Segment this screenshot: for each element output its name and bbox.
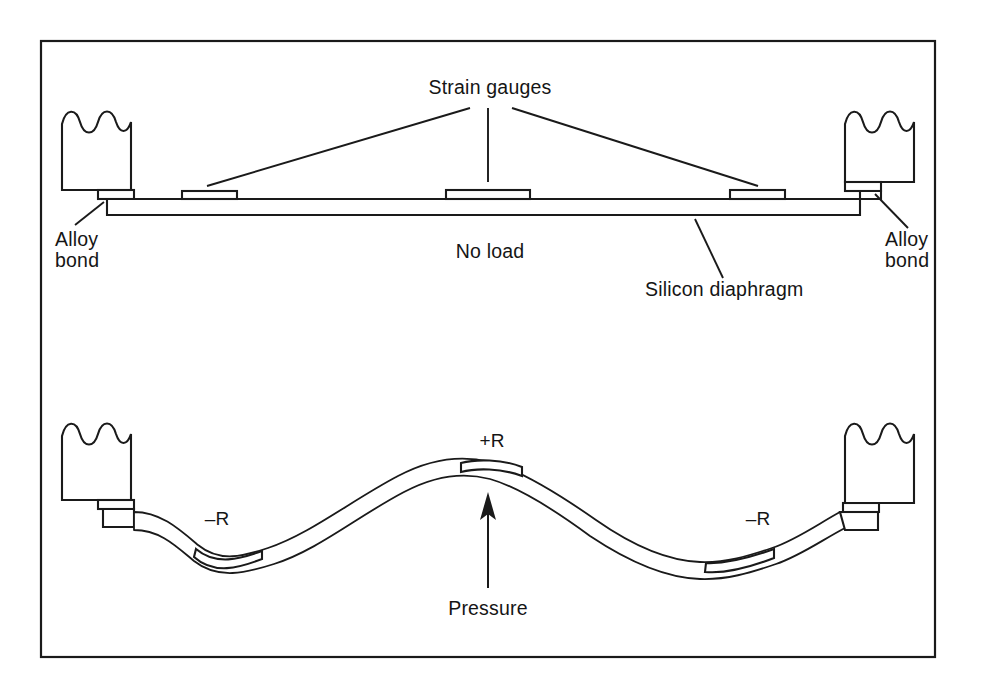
left-alloy-bond-strip-top — [98, 190, 134, 199]
gauge-label-plus-r: +R — [480, 430, 505, 451]
silicon-diaphragm-leader — [695, 219, 723, 278]
alloy-bond-right-label-line2: bond — [885, 249, 929, 271]
right-alloy-bond-strip-bottom — [843, 503, 879, 512]
diaphragm-right-clamp-stub — [840, 512, 878, 530]
right-support-block-bottom — [845, 424, 914, 504]
gauge-label-minus-r-right: –R — [746, 508, 770, 529]
pressure-panel: –R +R –R Pressure — [62, 424, 914, 620]
alloy-bond-left-label-line2: bond — [55, 249, 99, 271]
gauge-label-minus-r-left: –R — [205, 508, 229, 529]
strain-gauge-flat-left — [182, 191, 237, 199]
alloy-bond-left-leader — [75, 202, 104, 225]
strain-gauges-label: Strain gauges — [429, 76, 552, 98]
alloy-bond-left-label-line1: Alloy — [55, 228, 98, 250]
diaphragm-left-clamp-stub — [103, 509, 134, 527]
alloy-bond-right-label-line1: Alloy — [885, 228, 928, 250]
left-support-block-top — [62, 112, 131, 191]
strain-gauge-flat-center — [446, 190, 530, 199]
diagram-canvas: Strain gauges Alloy bond Alloy bond No l… — [0, 0, 983, 689]
left-support-block-bottom — [62, 424, 131, 501]
no-load-label: No load — [456, 240, 525, 262]
silicon-diaphragm-flat — [107, 199, 860, 215]
no-load-panel: Strain gauges Alloy bond Alloy bond No l… — [55, 76, 929, 300]
right-support-block-top — [845, 112, 914, 183]
alloy-bond-right-leader — [875, 194, 908, 228]
strain-gauge-flat-right — [730, 190, 785, 199]
strain-gauges-leader-right — [512, 108, 758, 186]
figure-root: Strain gauges Alloy bond Alloy bond No l… — [0, 0, 983, 689]
strain-gauges-leader-left — [207, 108, 470, 186]
silicon-diaphragm-label: Silicon diaphragm — [645, 278, 803, 300]
pressure-label: Pressure — [448, 597, 528, 619]
left-alloy-bond-strip-bottom — [98, 500, 134, 509]
right-alloy-bond-strip-top — [845, 182, 881, 191]
